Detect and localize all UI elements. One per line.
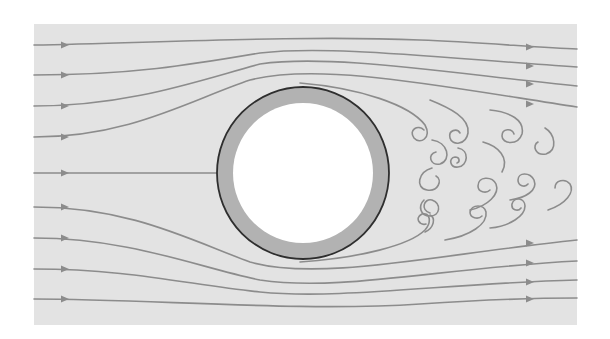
cylinder-flow-figure (0, 0, 610, 339)
cylinder (217, 87, 389, 259)
flow-diagram: Flow past a circular cylinder with vorte… (0, 0, 610, 339)
cylinder-interior (233, 103, 373, 243)
